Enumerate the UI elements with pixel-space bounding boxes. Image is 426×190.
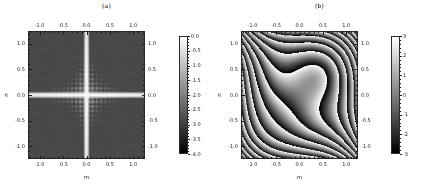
minor-tick-top xyxy=(77,31,78,33)
colorbar-tick-label: -1.0 xyxy=(191,63,201,68)
minor-tick-right xyxy=(143,105,145,106)
colorbar-minor-tick xyxy=(188,57,189,58)
colorbar-minor-tick xyxy=(188,130,189,131)
panel-a-plot-area xyxy=(28,31,145,159)
colorbar-minor-tick xyxy=(188,104,189,105)
minor-tick-top xyxy=(138,31,139,33)
x-tick-label-top: 0.5 xyxy=(315,23,331,28)
minor-tick-bottom xyxy=(82,157,83,159)
minor-tick-right xyxy=(356,34,358,35)
y-tick-label-left: 0.0 xyxy=(9,93,25,98)
colorbar-major-tick xyxy=(400,36,402,37)
colorbar-tick-label: -3.5 xyxy=(191,137,201,142)
minor-tick-right xyxy=(356,131,358,132)
colorbar-major-tick xyxy=(188,139,190,140)
colorbar-major-tick xyxy=(400,95,402,96)
minor-tick-bottom xyxy=(243,157,244,159)
colorbar-minor-tick xyxy=(188,119,189,120)
y-tick-label-right: 1.0 xyxy=(361,41,377,46)
minor-tick-left xyxy=(241,105,243,106)
minor-tick-left xyxy=(241,85,243,86)
colorbar-minor-tick xyxy=(400,130,401,131)
x-tick-label-bottom: -1.0 xyxy=(245,162,261,167)
minor-tick-bottom xyxy=(267,157,268,159)
colorbar-major-tick xyxy=(188,95,190,96)
minor-tick-top xyxy=(318,31,319,33)
minor-tick-left xyxy=(241,54,243,55)
minor-tick-left xyxy=(241,75,243,76)
major-tick-right xyxy=(355,69,359,70)
minor-tick-left xyxy=(28,59,30,60)
minor-tick-bottom xyxy=(271,157,272,159)
minor-tick-right xyxy=(356,110,358,111)
colorbar-minor-tick xyxy=(400,142,401,143)
minor-tick-left xyxy=(241,151,243,152)
minor-tick-left xyxy=(28,34,30,35)
minor-tick-bottom xyxy=(44,157,45,159)
x-tick-label-bottom: 0.0 xyxy=(292,162,308,167)
minor-tick-right xyxy=(356,151,358,152)
major-tick-left xyxy=(241,44,245,45)
colorbar-major-tick xyxy=(400,75,402,76)
colorbar-minor-tick xyxy=(400,103,401,104)
minor-tick-top xyxy=(248,31,249,33)
major-tick-left xyxy=(28,146,32,147)
minor-tick-bottom xyxy=(30,157,31,159)
colorbar-minor-tick xyxy=(188,122,189,123)
minor-tick-top xyxy=(119,31,120,33)
colorbar-tick-label: 0.0 xyxy=(191,34,199,39)
minor-tick-bottom xyxy=(295,157,296,159)
major-tick-right xyxy=(355,44,359,45)
minor-tick-left xyxy=(241,80,243,81)
colorbar-minor-tick xyxy=(400,107,401,108)
colorbar-major-tick xyxy=(400,56,402,57)
colorbar-minor-tick xyxy=(188,48,189,49)
x-tick-label-top: -1.0 xyxy=(245,23,261,28)
minor-tick-right xyxy=(356,80,358,81)
minor-tick-left xyxy=(241,49,243,50)
minor-tick-bottom xyxy=(68,157,69,159)
minor-tick-top xyxy=(342,31,343,33)
minor-tick-top xyxy=(30,31,31,33)
major-tick-top xyxy=(346,31,347,35)
colorbar-tick-label: -4.0 xyxy=(191,152,201,157)
colorbar-minor-tick xyxy=(188,68,189,69)
colorbar-minor-tick xyxy=(400,111,401,112)
major-tick-left xyxy=(241,69,245,70)
minor-tick-left xyxy=(241,100,243,101)
x-tick-label-top: 0.5 xyxy=(102,23,118,28)
minor-tick-bottom xyxy=(351,157,352,159)
x-tick-label-top: -1.0 xyxy=(32,23,48,28)
major-tick-bottom xyxy=(133,156,134,160)
minor-tick-bottom xyxy=(101,157,102,159)
colorbar-minor-tick xyxy=(188,101,189,102)
minor-tick-bottom xyxy=(91,157,92,159)
colorbar-minor-tick xyxy=(400,60,401,61)
minor-tick-right xyxy=(143,54,145,55)
panel-b-y-axis-label: n xyxy=(216,88,222,102)
minor-tick-left xyxy=(241,126,243,127)
figure-two-panel-heatmaps: (a) -1.0-1.0-0.5-0.50.00.00.50.51.01.0-1… xyxy=(0,0,426,190)
colorbar-minor-tick xyxy=(188,92,189,93)
minor-tick-right xyxy=(143,59,145,60)
minor-tick-top xyxy=(58,31,59,33)
y-tick-label-right: 0.5 xyxy=(361,67,377,72)
minor-tick-bottom xyxy=(342,157,343,159)
y-tick-label-left: -0.5 xyxy=(222,118,238,123)
major-tick-bottom xyxy=(63,156,64,160)
x-tick-label-bottom: 1.0 xyxy=(125,162,141,167)
minor-tick-top xyxy=(328,31,329,33)
minor-tick-right xyxy=(356,39,358,40)
colorbar-minor-tick xyxy=(188,148,189,149)
minor-tick-top xyxy=(124,31,125,33)
y-tick-label-left: 1.0 xyxy=(222,41,238,46)
colorbar-tick-label: 2 xyxy=(403,53,406,58)
minor-tick-left xyxy=(28,141,30,142)
panel-b-title: (b) xyxy=(213,2,426,9)
minor-tick-top xyxy=(332,31,333,33)
colorbar-minor-tick xyxy=(400,91,401,92)
colorbar-major-tick xyxy=(188,80,190,81)
panel-b: (b) -1.0-1.0-0.5-0.50.00.00.50.51.01.0-1… xyxy=(213,0,426,190)
minor-tick-top xyxy=(267,31,268,33)
minor-tick-right xyxy=(143,136,145,137)
